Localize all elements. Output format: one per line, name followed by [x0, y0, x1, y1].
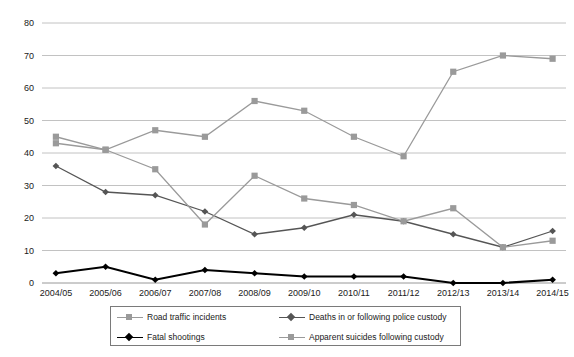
x-axis-tick-label: 2004/05 — [40, 288, 73, 298]
data-point-marker — [351, 273, 358, 280]
legend-entries: Road traffic incidentsDeaths in or follo… — [111, 307, 460, 345]
x-axis-tick-label: 2011/12 — [388, 288, 420, 298]
y-axis-tick-label: 20 — [24, 213, 34, 223]
data-point-marker — [301, 273, 308, 280]
data-point-marker — [500, 280, 507, 287]
data-point-marker — [152, 276, 159, 283]
data-point-marker — [450, 280, 457, 287]
x-axis-tick-label: 2005/06 — [89, 288, 122, 298]
line-chart: 01020304050607080 2004/052005/062006/072… — [0, 0, 574, 357]
chart-legend: Road traffic incidentsDeaths in or follo… — [110, 306, 461, 346]
chart-plot-area: 01020304050607080 2004/052005/062006/072… — [0, 0, 574, 357]
series-line — [56, 56, 553, 157]
y-axis-tick-label: 60 — [24, 83, 34, 93]
data-point-marker — [549, 228, 556, 235]
series-group — [53, 52, 556, 286]
x-axis-tick-label: 2010/11 — [338, 288, 370, 298]
data-point-marker — [400, 153, 406, 159]
x-axis-tick-label: 2008/09 — [238, 288, 271, 298]
data-point-marker — [202, 221, 208, 227]
data-point-marker — [351, 211, 358, 218]
x-axis-tick-label: 2013/14 — [487, 288, 520, 298]
data-point-marker — [152, 127, 158, 133]
data-point-marker — [152, 192, 159, 199]
data-point-marker — [251, 231, 258, 238]
y-axis-tick-label: 10 — [24, 246, 34, 256]
data-point-marker — [301, 195, 307, 201]
x-axis-labels-group: 2004/052005/062006/072007/082008/092009/… — [40, 288, 569, 298]
y-axis-tick-label: 50 — [24, 116, 34, 126]
data-point-marker — [500, 244, 506, 250]
data-point-marker — [400, 218, 406, 224]
data-point-marker — [53, 140, 59, 146]
legend-item: Apparent suicides following custody — [273, 332, 462, 342]
data-point-marker — [450, 205, 456, 211]
x-axis-tick-label: 2009/10 — [288, 288, 321, 298]
legend-item: Deaths in or following police custody — [273, 312, 462, 322]
y-axis-tick-label: 0 — [29, 278, 34, 288]
data-point-marker — [351, 202, 357, 208]
data-point-marker — [549, 56, 555, 62]
data-point-marker — [301, 224, 308, 231]
series-line — [56, 166, 553, 247]
data-point-marker — [549, 276, 556, 283]
y-axis-tick-label: 40 — [24, 148, 34, 158]
data-point-marker — [301, 108, 307, 114]
data-point-marker — [53, 163, 60, 170]
data-point-marker — [202, 134, 208, 140]
series-deaths-in-or-following-police-custody — [53, 163, 556, 251]
legend-square-marker-icon — [117, 312, 143, 322]
series-road-traffic-incidents — [53, 52, 556, 159]
data-point-marker — [102, 147, 108, 153]
data-point-marker — [549, 238, 555, 244]
y-axis-tick-label: 80 — [24, 18, 34, 28]
data-point-marker — [351, 134, 357, 140]
legend-diamond-marker-icon — [279, 312, 305, 322]
y-axis-tick-label: 70 — [24, 51, 34, 61]
legend-square-marker-icon — [279, 332, 305, 342]
data-point-marker — [152, 166, 158, 172]
legend-diamond-marker-icon — [117, 332, 143, 342]
data-point-marker — [450, 69, 456, 75]
legend-item-label: Road traffic incidents — [147, 312, 226, 322]
data-point-marker — [500, 52, 506, 58]
data-point-marker — [202, 267, 209, 274]
legend-item-label: Deaths in or following police custody — [309, 312, 447, 322]
y-axis-tick-label: 30 — [24, 181, 34, 191]
data-point-marker — [53, 134, 59, 140]
x-axis-tick-label: 2007/08 — [189, 288, 222, 298]
legend-item: Fatal shootings — [111, 332, 273, 342]
y-axis-labels-group: 01020304050607080 — [24, 18, 34, 288]
legend-item-label: Fatal shootings — [147, 332, 205, 342]
data-point-marker — [251, 173, 257, 179]
data-point-marker — [102, 189, 109, 196]
x-axis-tick-label: 2014/15 — [536, 288, 569, 298]
x-axis-tick-label: 2006/07 — [139, 288, 172, 298]
data-point-marker — [202, 208, 209, 215]
gridlines-group — [42, 23, 566, 283]
data-point-marker — [450, 231, 457, 238]
data-point-marker — [400, 273, 407, 280]
x-axis-tick-label: 2012/13 — [437, 288, 470, 298]
data-point-marker — [53, 270, 60, 277]
data-point-marker — [251, 270, 258, 277]
data-point-marker — [251, 98, 257, 104]
legend-item-label: Apparent suicides following custody — [309, 332, 444, 342]
series-apparent-suicides-following-custody — [53, 134, 556, 251]
data-point-marker — [102, 263, 109, 270]
legend-item: Road traffic incidents — [111, 312, 273, 322]
